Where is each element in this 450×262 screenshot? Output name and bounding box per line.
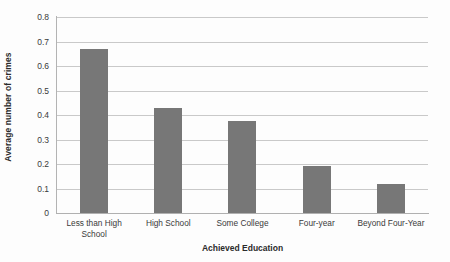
- x-axis-tick-label: Some College: [205, 218, 279, 229]
- y-axis-tick-label: 0.3: [37, 136, 49, 145]
- x-axis-title: Achieved Education: [57, 243, 428, 253]
- y-axis-title: Average number of crimes: [0, 0, 16, 213]
- bar[interactable]: [154, 108, 182, 213]
- y-axis-tick-label: 0.8: [37, 13, 49, 22]
- bar-slot: [280, 17, 354, 213]
- y-axis-tick-label: 0.5: [37, 87, 49, 96]
- y-axis-tick-label: 0.6: [37, 62, 49, 71]
- x-axis-tick-label: Four-year: [280, 218, 354, 229]
- bars-layer: [57, 17, 428, 213]
- bar-chart-figure: Average number of crimes 0.80.70.60.50.4…: [0, 0, 450, 262]
- bar[interactable]: [377, 184, 405, 213]
- bar-slot: [205, 17, 279, 213]
- x-axis-line: [56, 213, 429, 214]
- y-axis-tick-label: 0.1: [37, 185, 49, 194]
- bar-slot: [57, 17, 131, 213]
- bar[interactable]: [228, 121, 256, 213]
- x-axis-tick-label: Beyond Four-Year: [354, 218, 428, 229]
- x-axis-tick-label: Less than High School: [57, 218, 131, 240]
- x-axis-tick-label: High School: [131, 218, 205, 229]
- y-axis-tick-label: 0: [44, 209, 49, 218]
- y-axis-tick-labels: 0.80.70.60.50.40.30.20.10: [17, 0, 53, 222]
- y-axis-tick-label: 0.7: [37, 38, 49, 47]
- y-axis-tick-label: 0.4: [37, 111, 49, 120]
- bar[interactable]: [303, 166, 331, 213]
- plot-area: [57, 17, 428, 213]
- bar-slot: [354, 17, 428, 213]
- y-axis-tick-label: 0.2: [37, 160, 49, 169]
- y-axis-title-label: Average number of crimes: [3, 52, 13, 161]
- bar[interactable]: [80, 49, 108, 213]
- bar-slot: [131, 17, 205, 213]
